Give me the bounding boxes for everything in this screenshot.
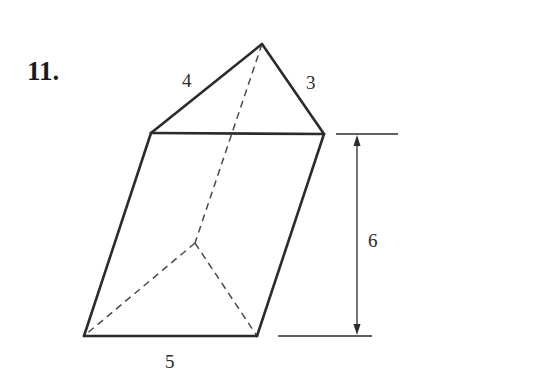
hidden-base-edge-right [195,243,257,336]
label-height-6: 6 [368,230,378,251]
label-edge-4: 4 [182,70,192,91]
left-lateral-edge [84,133,151,336]
label-edge-5: 5 [165,351,175,372]
top-triangle-sides [151,44,324,134]
arrow-down-icon [354,324,361,335]
label-edge-3: 3 [306,72,316,93]
height-dimension [278,134,398,336]
visible-edges [84,44,324,336]
hidden-lateral-edge [195,44,262,243]
right-lateral-edge [257,134,324,336]
arrow-up-icon [354,135,361,146]
top-front-edge [151,133,324,134]
hidden-edges [84,44,262,336]
triangular-prism-diagram: 4 3 5 6 [0,0,551,387]
